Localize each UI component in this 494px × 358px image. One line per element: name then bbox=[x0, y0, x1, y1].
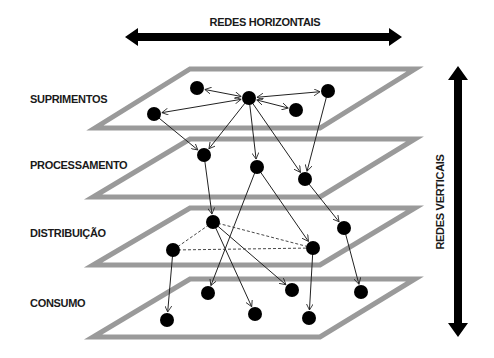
double-arrow-vertical-icon bbox=[448, 66, 468, 337]
edge-B-A bbox=[205, 90, 241, 97]
node-distribuicao-J bbox=[166, 243, 180, 257]
node-consumo-R bbox=[302, 311, 316, 325]
node-processamento-G bbox=[250, 160, 264, 174]
edge-F-I bbox=[204, 155, 212, 214]
node-suprimentos-C bbox=[321, 84, 335, 98]
layer-label-distribuicao: DISTRIBUIÇÃO bbox=[30, 227, 107, 239]
layer-label-consumo: CONSUMO bbox=[30, 297, 86, 309]
node-consumo-M bbox=[201, 286, 215, 300]
edge-B-D bbox=[257, 100, 288, 108]
node-consumo-P bbox=[160, 313, 174, 327]
edge-L-O bbox=[344, 228, 359, 284]
edge-C-H bbox=[307, 91, 328, 171]
plane-distribuicao bbox=[93, 208, 415, 265]
vertical-networks-arrow: REDES VERTICAIS bbox=[434, 66, 468, 337]
edge-J-P bbox=[168, 250, 173, 312]
edge-I-J bbox=[173, 222, 213, 250]
node-consumo-O bbox=[354, 285, 368, 299]
node-processamento-H bbox=[298, 172, 312, 186]
layer-label-processamento: PROCESSAMENTO bbox=[30, 159, 128, 171]
node-suprimentos-D bbox=[289, 103, 303, 117]
double-arrow-horizontal-icon bbox=[125, 28, 402, 46]
edge-B-E bbox=[162, 99, 241, 112]
node-suprimentos-A bbox=[190, 81, 204, 95]
node-distribuicao-I bbox=[206, 215, 220, 229]
edge-H-L bbox=[305, 179, 339, 222]
node-consumo-Q bbox=[248, 307, 262, 321]
vertical-networks-label: REDES VERTICAIS bbox=[434, 154, 446, 249]
layer-label-suprimentos: SUPRIMENTOS bbox=[30, 93, 107, 105]
node-distribuicao-K bbox=[306, 241, 320, 255]
horizontal-networks-arrow: REDES HORIZONTAIS bbox=[125, 16, 402, 46]
node-processamento-F bbox=[197, 148, 211, 162]
edge-B-C bbox=[257, 92, 320, 98]
horizontal-networks-label: REDES HORIZONTAIS bbox=[210, 16, 321, 28]
node-suprimentos-B bbox=[242, 91, 256, 105]
node-consumo-N bbox=[285, 283, 299, 297]
supply-chain-network-diagram: REDES HORIZONTAIS REDES VERTICAIS SUPRIM… bbox=[0, 0, 494, 358]
node-distribuicao-L bbox=[337, 221, 351, 235]
node-suprimentos-E bbox=[147, 107, 161, 121]
